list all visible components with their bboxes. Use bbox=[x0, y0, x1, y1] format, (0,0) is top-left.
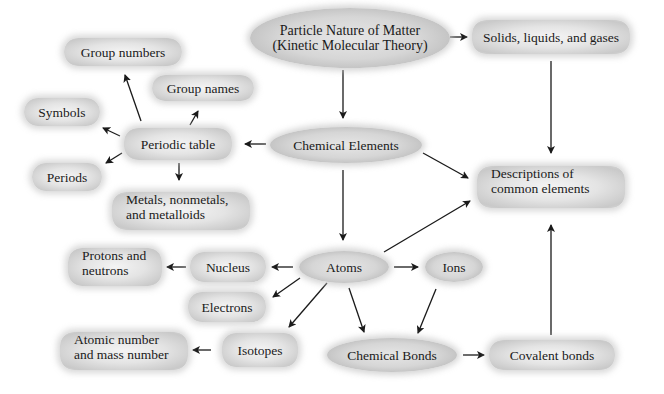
node-group-names: Group names bbox=[152, 75, 254, 101]
node-label-line1: Particle Nature of Matter bbox=[280, 23, 420, 38]
node-atoms: Atoms bbox=[299, 251, 389, 283]
node-label: Periods bbox=[47, 170, 88, 185]
node-nucleus: Nucleus bbox=[190, 252, 266, 282]
node-covalent-bonds: Covalent bonds bbox=[489, 340, 615, 370]
node-descriptions-of-common-elements: Descriptions of common elements bbox=[477, 166, 625, 208]
node-chemical-bonds: Chemical Bonds bbox=[327, 338, 457, 372]
node-protons-and-neutrons: Protons and neutrons bbox=[68, 248, 162, 286]
node-label-line1: Descriptions of bbox=[491, 166, 574, 181]
node-periods: Periods bbox=[32, 163, 102, 191]
node-label-line2: (Kinetic Molecular Theory) bbox=[272, 38, 427, 53]
node-electrons: Electrons bbox=[188, 292, 266, 322]
node-label: Periodic table bbox=[141, 137, 216, 152]
node-solids-liquids-gases: Solids, liquids, and gases bbox=[472, 20, 630, 54]
node-label: Solids, liquids, and gases bbox=[483, 30, 619, 45]
node-label: Chemical Elements bbox=[293, 138, 398, 153]
node-label-line1: Atomic number bbox=[74, 332, 159, 347]
node-label: Isotopes bbox=[238, 343, 283, 358]
node-label: Covalent bonds bbox=[510, 348, 594, 363]
node-group-numbers: Group numbers bbox=[64, 38, 182, 66]
node-particle-nature-of-matter: Particle Nature of Matter (Kinetic Molec… bbox=[250, 8, 450, 68]
node-chemical-elements: Chemical Elements bbox=[270, 127, 422, 163]
node-label-line1: Metals, nonmetals, bbox=[126, 192, 228, 207]
node-ions: Ions bbox=[425, 252, 483, 282]
node-label: Group names bbox=[167, 81, 239, 96]
node-label-line2: and metalloids bbox=[126, 207, 205, 222]
node-label: Chemical Bonds bbox=[347, 348, 437, 363]
node-label: Group numbers bbox=[81, 45, 165, 60]
node-metals-nonmetals-metalloids: Metals, nonmetals, and metalloids bbox=[112, 192, 250, 230]
node-label: Symbols bbox=[38, 105, 85, 120]
node-label-line2: neutrons bbox=[82, 263, 129, 278]
node-atomic-number-and-mass-number: Atomic number and mass number bbox=[60, 332, 188, 370]
node-symbols: Symbols bbox=[24, 98, 100, 126]
node-label: Ions bbox=[442, 260, 465, 275]
node-isotopes: Isotopes bbox=[222, 333, 298, 367]
node-label: Atoms bbox=[326, 260, 362, 275]
node-label-line2: and mass number bbox=[74, 347, 168, 362]
node-periodic-table: Periodic table bbox=[124, 128, 232, 160]
node-label-line1: Protons and bbox=[82, 248, 146, 263]
node-label: Electrons bbox=[202, 300, 253, 315]
node-label-line2: common elements bbox=[491, 181, 590, 196]
node-label: Nucleus bbox=[206, 260, 250, 275]
